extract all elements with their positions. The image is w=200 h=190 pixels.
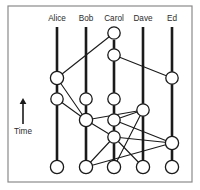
- event-node-b1: [80, 93, 92, 105]
- event-node-e3: [165, 160, 178, 173]
- space-time-diagram: AliceBobCarolDaveEd Time: [0, 0, 200, 190]
- process-label-dave: Dave: [133, 14, 153, 23]
- process-label-bob: Bob: [79, 14, 94, 23]
- event-node-b2: [79, 113, 92, 126]
- event-node-c5: [108, 131, 120, 143]
- event-node-c1: [108, 27, 120, 39]
- diagram-canvas: AliceBobCarolDaveEd Time: [0, 0, 200, 190]
- event-node-d2: [136, 160, 149, 173]
- event-node-b3: [79, 160, 92, 173]
- time-axis-label: Time: [14, 127, 32, 136]
- process-label-carol: Carol: [104, 14, 124, 23]
- event-node-a2: [51, 93, 63, 105]
- process-label-alice: Alice: [48, 14, 66, 23]
- process-label-ed: Ed: [167, 14, 177, 23]
- event-node-c2: [108, 49, 120, 61]
- diagram-frame: [8, 6, 192, 182]
- event-node-d1: [137, 104, 149, 116]
- event-node-c4: [108, 114, 120, 126]
- event-node-e2: [165, 136, 178, 149]
- event-node-e1: [166, 72, 178, 84]
- event-node-c3: [108, 93, 120, 105]
- event-node-a3: [50, 160, 63, 173]
- event-node-c6: [107, 160, 120, 173]
- event-node-a1: [50, 71, 63, 84]
